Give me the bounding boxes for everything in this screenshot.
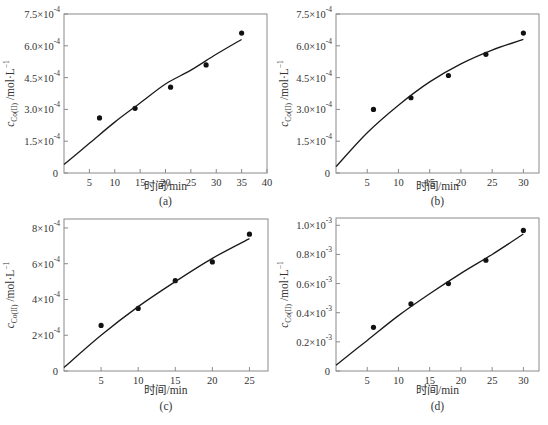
y-tick-label: 4×10-4: [32, 290, 60, 305]
y-tick-label: 0: [53, 366, 58, 377]
y-tick-label: 0.8×10-3: [296, 245, 332, 260]
y-tick-label: 6×10-4: [32, 255, 60, 270]
y-tick-label: 1.0×10-3: [296, 216, 332, 231]
y-axis: 01.5×10-43.0×10-44.5×10-46.0×10-47.5×10-…: [24, 5, 68, 179]
y-tick-label: 4.5×10-4: [296, 69, 332, 84]
x-tick-label: 5: [365, 375, 370, 386]
data-point: [97, 115, 102, 120]
y-tick-label: 6.0×10-4: [24, 37, 60, 52]
x-tick-label: 5: [365, 177, 370, 188]
y-tick-label: 0: [53, 168, 58, 179]
panel-a: 51015202530354001.5×10-43.0×10-44.5×10-4…: [0, 0, 274, 215]
plot-frame: [336, 218, 539, 371]
x-tick-label: 20: [207, 375, 218, 386]
plot-frame: [64, 219, 268, 371]
plot-frame: [64, 14, 267, 173]
y-axis-label: cCo(II) /mol·L−1: [276, 60, 293, 127]
x-tick-label: 25: [487, 375, 498, 386]
y-tick-label: 1.5×10-4: [296, 132, 332, 147]
data-point: [239, 30, 244, 35]
y-tick-label: 3.0×10-4: [24, 100, 60, 115]
x-tick-label: 10: [393, 177, 404, 188]
y-tick-label: 6.0×10-4: [296, 37, 332, 52]
x-tick-label: 25: [487, 177, 498, 188]
data-points: [371, 30, 526, 112]
data-point: [521, 30, 526, 35]
y-axis-label: cCo(II) /mol·L−1: [2, 60, 19, 127]
x-axis-label: 时间/min: [144, 180, 187, 192]
panel-d: 5101520253000.2×10-30.4×10-30.6×10-30.8×…: [274, 212, 548, 425]
y-tick-label: 7.5×10-4: [24, 5, 60, 20]
chart-a: 51015202530354001.5×10-43.0×10-44.5×10-4…: [0, 0, 274, 215]
y-tick-label: 1.5×10-4: [24, 132, 60, 147]
model-curve: [64, 239, 249, 368]
y-tick-label: 0.2×10-3: [296, 333, 332, 348]
x-tick-label: 30: [518, 375, 529, 386]
y-axis: 00.2×10-30.4×10-30.6×10-30.8×10-31.0×10-…: [296, 216, 340, 377]
x-tick-label: 35: [236, 177, 247, 188]
model-curve: [64, 39, 242, 164]
panel-caption: (b): [431, 195, 445, 208]
x-tick-label: 10: [133, 375, 144, 386]
chart-c: 51015202502×10-44×10-46×10-48×10-4cCo(II…: [0, 212, 274, 425]
x-axis-label: 时间/min: [416, 180, 459, 192]
x-tick-label: 25: [244, 375, 255, 386]
x-tick-label: 25: [186, 177, 197, 188]
model-curve: [336, 234, 523, 365]
y-tick-label: 4.5×10-4: [24, 69, 60, 84]
panel-c: 51015202502×10-44×10-46×10-48×10-4cCo(II…: [0, 212, 274, 425]
y-axis-label: cCo(II) /mol·L−1: [276, 261, 293, 328]
x-tick-label: 5: [98, 375, 103, 386]
panel-caption: (a): [159, 195, 172, 208]
y-tick-label: 0.4×10-3: [296, 304, 332, 319]
x-tick-label: 5: [87, 177, 92, 188]
x-tick-label: 30: [518, 177, 529, 188]
data-point: [446, 73, 451, 78]
data-points: [98, 232, 252, 328]
y-tick-label: 0.6×10-3: [296, 275, 332, 290]
y-axis: 02×10-44×10-46×10-48×10-4: [32, 219, 68, 377]
x-tick-label: 30: [211, 177, 222, 188]
y-tick-label: 8×10-4: [32, 219, 60, 234]
data-point: [204, 62, 209, 67]
data-point: [98, 323, 103, 328]
panel-caption: (c): [160, 400, 173, 413]
data-points: [97, 30, 244, 120]
data-point: [371, 325, 376, 330]
data-point: [168, 85, 173, 90]
x-axis-label: 时间/min: [144, 384, 187, 396]
model-curve: [336, 39, 523, 166]
y-axis-label: cCo(II) /mol·L−1: [2, 261, 19, 328]
chart-b: 5101520253001.5×10-43.0×10-44.5×10-46.0×…: [274, 0, 548, 215]
y-axis: 01.5×10-43.0×10-44.5×10-46.0×10-47.5×10-…: [296, 5, 340, 179]
y-tick-label: 0: [325, 366, 330, 377]
x-tick-label: 10: [393, 375, 404, 386]
y-tick-label: 2×10-4: [32, 326, 60, 341]
data-point: [521, 228, 526, 233]
data-points: [371, 228, 526, 330]
data-point: [247, 232, 252, 237]
panel-b: 5101520253001.5×10-43.0×10-44.5×10-46.0×…: [274, 0, 548, 215]
x-tick-label: 10: [110, 177, 121, 188]
y-tick-label: 7.5×10-4: [296, 5, 332, 20]
chart-d: 5101520253000.2×10-30.4×10-30.6×10-30.8×…: [274, 212, 548, 425]
y-tick-label: 3.0×10-4: [296, 100, 332, 115]
x-axis-label: 时间/min: [416, 384, 459, 396]
x-tick-label: 40: [262, 177, 273, 188]
y-tick-label: 0: [325, 168, 330, 179]
data-point: [371, 107, 376, 112]
panel-caption: (d): [431, 400, 445, 413]
plot-frame: [336, 14, 539, 173]
